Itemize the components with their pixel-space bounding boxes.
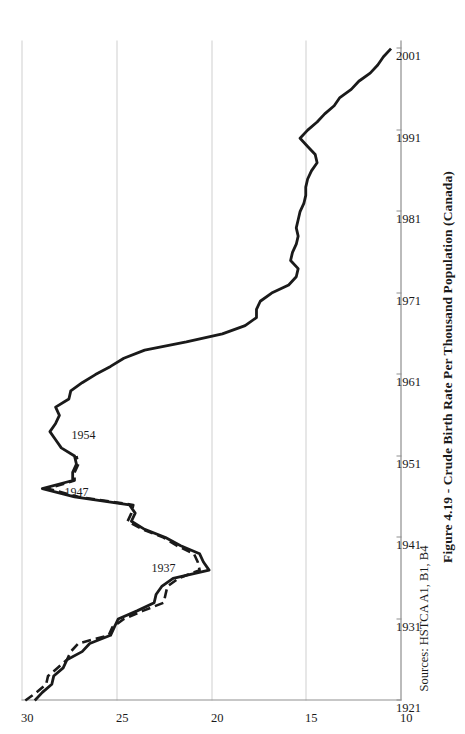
source-note-text: Sources: HSTCA A1, B1, B4 — [418, 546, 433, 692]
annotation-1937: 1937 — [151, 560, 175, 575]
chart-rotated-stage: 1921193119411951196119711981199120011015… — [0, 0, 465, 734]
plot-area: 1921193119411951196119711981199120011015… — [21, 40, 400, 700]
annotation-1947: 1947 — [64, 485, 88, 500]
annotation-1954: 1954 — [71, 428, 95, 443]
figure-title-text: Figure 4.19 - Crude Birth Rate Per Thous… — [440, 171, 456, 563]
source-note: Sources: HSTCA A1, B1, B4 — [415, 0, 435, 734]
series-line-solid — [34, 48, 390, 700]
rate-tick-label-30: 30 — [9, 711, 33, 726]
figure-title: Figure 4.19 - Crude Birth Rate Per Thous… — [437, 0, 459, 734]
figure-page: 1921193119411951196119711981199120011015… — [0, 0, 465, 734]
rate-tick-label-25: 25 — [104, 711, 128, 726]
rate-tick-label-15: 15 — [293, 711, 317, 726]
series-layer — [21, 40, 400, 700]
rate-tick-label-20: 20 — [199, 711, 223, 726]
rate-tick-label-10: 10 — [388, 711, 412, 726]
